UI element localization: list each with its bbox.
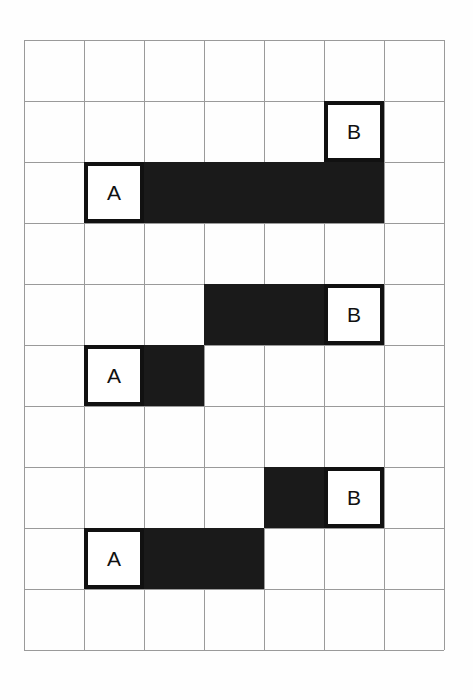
node-b-3[interactable]: B xyxy=(324,467,384,528)
group-3: AB xyxy=(24,40,444,650)
node-a-3[interactable]: A xyxy=(84,528,144,589)
grid-line-vertical xyxy=(444,40,445,650)
grid-line-horizontal xyxy=(24,650,444,651)
bar-3-upper xyxy=(264,467,324,528)
diagram-shapes: ABABAB xyxy=(24,40,444,650)
bar-3-lower xyxy=(144,528,264,589)
figure-canvas: ABABAB xyxy=(0,0,473,700)
node-label: B xyxy=(347,487,361,508)
node-label: A xyxy=(107,548,121,569)
